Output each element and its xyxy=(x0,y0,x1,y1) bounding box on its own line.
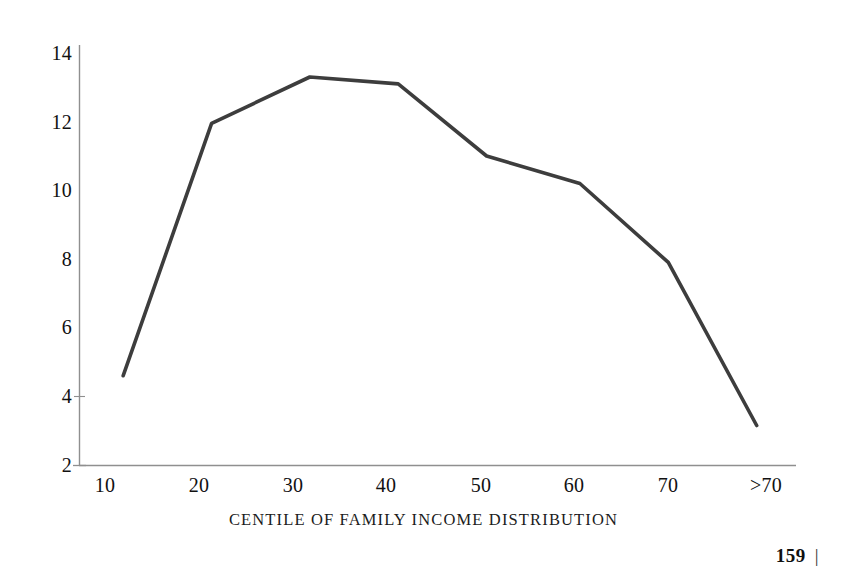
figure-root: 14 12 10 8 6 4 2 10 20 30 40 50 60 70 >7… xyxy=(0,0,847,578)
line-chart-plot-area: 14 12 10 8 6 4 2 10 20 30 40 50 60 70 >7… xyxy=(0,0,847,578)
x-tick-label-above-70: >70 xyxy=(726,475,806,495)
y-tick-label-14: 14 xyxy=(20,43,72,63)
x-tick-label-60: 60 xyxy=(534,475,614,495)
y-tick-label-12: 12 xyxy=(20,112,72,132)
x-tick-label-20: 20 xyxy=(159,475,239,495)
y-tick-label-10: 10 xyxy=(20,180,72,200)
page-footer: 159| xyxy=(776,545,819,567)
x-tick-label-30: 30 xyxy=(253,475,333,495)
x-axis-caption: CENTILE OF FAMILY INCOME DISTRIBUTION xyxy=(0,510,847,530)
data-series-line xyxy=(123,77,757,426)
x-tick-label-50: 50 xyxy=(441,475,521,495)
y-tick-label-8: 8 xyxy=(20,249,72,269)
x-tick-label-10: 10 xyxy=(65,475,145,495)
footer-rule-glyph: | xyxy=(815,545,819,567)
y-tick-label-2: 2 xyxy=(20,455,72,475)
x-tick-label-40: 40 xyxy=(346,475,426,495)
x-tick-label-70: 70 xyxy=(628,475,708,495)
page-number: 159 xyxy=(776,545,806,566)
y-tick-label-6: 6 xyxy=(20,317,72,337)
y-tick-label-4: 4 xyxy=(20,386,72,406)
